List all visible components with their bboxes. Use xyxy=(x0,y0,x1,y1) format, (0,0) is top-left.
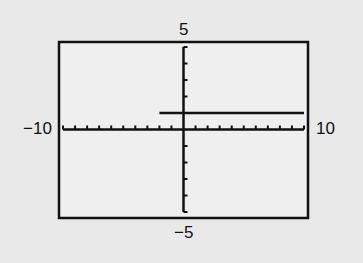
graph-window xyxy=(0,0,363,263)
